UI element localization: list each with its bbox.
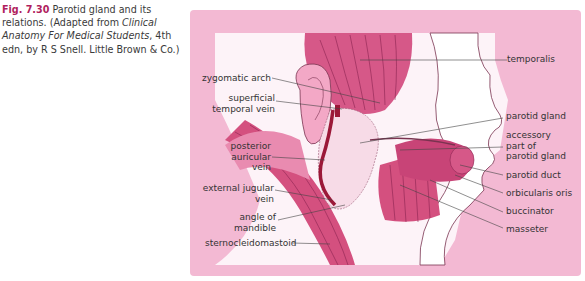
label-line: vein: [231, 162, 271, 173]
label-orbicularis-oris: orbicularis oris: [506, 188, 572, 199]
label-line: masseter: [506, 224, 548, 235]
label-angle-of-mandible: angle of mandible: [234, 212, 276, 233]
label-external-jugular-vein: external jugular vein: [203, 183, 274, 204]
label-line: auricular: [231, 152, 271, 163]
label-posterior-auricular-vein: posterior auricular vein: [231, 141, 271, 173]
label-masseter: masseter: [506, 224, 548, 235]
label-line: parotid gland: [506, 111, 566, 122]
label-line: temporal vein: [212, 104, 275, 115]
label-line: posterior: [231, 141, 271, 152]
label-line: parotid gland: [506, 151, 566, 162]
label-line: accessory: [506, 130, 566, 141]
label-line: parotid duct: [506, 170, 561, 181]
label-line: superficial: [212, 93, 275, 104]
label-line: buccinator: [506, 206, 554, 217]
label-line: zygomatic arch: [202, 73, 271, 84]
label-line: temporalis: [507, 54, 555, 65]
label-line: part of: [506, 141, 566, 152]
label-line: sternocleidomastoid: [205, 238, 296, 249]
label-line: orbicularis oris: [506, 188, 572, 199]
label-line: vein: [203, 194, 274, 205]
label-parotid-duct: parotid duct: [506, 170, 561, 181]
label-line: mandible: [234, 223, 276, 234]
label-superficial-temporal-vein: superficial temporal vein: [212, 93, 275, 114]
label-zygomatic-arch: zygomatic arch: [202, 73, 271, 84]
label-parotid-gland: parotid gland: [506, 111, 566, 122]
label-temporalis: temporalis: [507, 54, 555, 65]
label-accessory-part-of-parotid-gland: accessory part of parotid gland: [506, 130, 566, 162]
label-sternocleidomastoid: sternocleidomastoid: [205, 238, 296, 249]
label-line: external jugular: [203, 183, 274, 194]
label-buccinator: buccinator: [506, 206, 554, 217]
label-line: angle of: [234, 212, 276, 223]
